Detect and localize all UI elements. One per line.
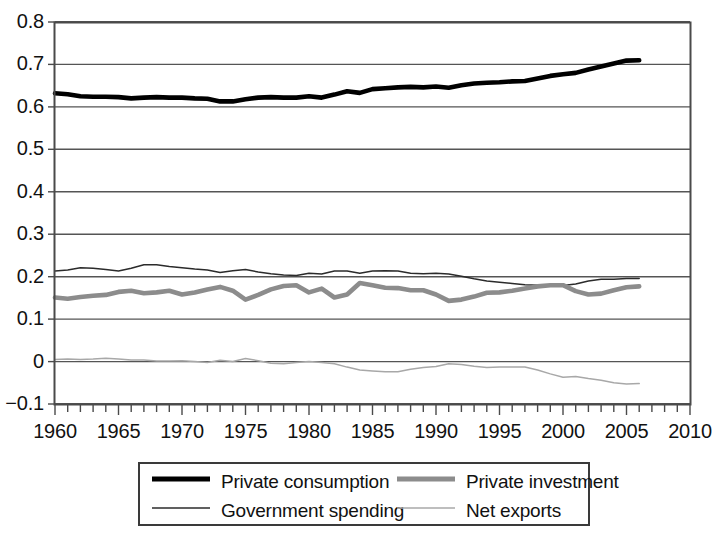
gridlines xyxy=(55,22,690,404)
y-axis-tick-label: 0.1 xyxy=(0,308,44,328)
legend-row-2: Government spending Net exports xyxy=(140,495,592,525)
chart-container: 0.80.70.60.50.40.30.20.10−0.1 1960196519… xyxy=(0,0,727,548)
series-line-private-investment xyxy=(55,283,639,301)
x-axis-tick-label: 1970 xyxy=(147,421,217,441)
legend-item-private-investment[interactable]: Private investment xyxy=(395,466,619,496)
legend-swatch-government-spending xyxy=(150,501,212,519)
x-axis-tick-label: 1990 xyxy=(401,421,471,441)
plot-frame xyxy=(55,23,691,405)
legend-label-net-exports: Net exports xyxy=(466,501,561,520)
legend-swatch-private-consumption xyxy=(150,472,212,490)
y-axis-tick-label: 0 xyxy=(0,351,44,371)
x-axis-tick-label: 2010 xyxy=(655,421,725,441)
y-axis-tick-label: 0.4 xyxy=(0,181,44,201)
data-series-group xyxy=(55,60,639,384)
y-axis-tick-label: 0.6 xyxy=(0,96,44,116)
legend-swatch-private-investment xyxy=(395,472,457,490)
x-axis-tick-label: 1995 xyxy=(465,421,535,441)
x-axis-tick-label: 1960 xyxy=(20,421,90,441)
legend-label-private-investment: Private investment xyxy=(466,472,619,491)
legend-row-1: Private consumption Private investment xyxy=(140,466,592,496)
legend-label-private-consumption: Private consumption xyxy=(221,472,389,491)
y-axis-tick-label: 0.2 xyxy=(0,266,44,286)
x-axis-ticks xyxy=(48,22,690,415)
series-line-private-consumption xyxy=(55,60,639,101)
legend-item-private-consumption[interactable]: Private consumption xyxy=(150,466,389,496)
x-axis-tick-label: 1965 xyxy=(84,421,154,441)
chart-legend: Private consumption Private investment G… xyxy=(138,462,590,526)
y-axis-tick-label: 0.3 xyxy=(0,223,44,243)
legend-swatch-net-exports xyxy=(395,501,457,519)
y-axis-tick-label: −0.1 xyxy=(0,393,44,413)
y-axis-tick-label: 0.8 xyxy=(0,11,44,31)
x-axis-tick-label: 1980 xyxy=(274,421,344,441)
y-axis-tick-label: 0.7 xyxy=(0,53,44,73)
legend-item-government-spending[interactable]: Government spending xyxy=(150,495,404,525)
x-axis-tick-label: 2005 xyxy=(592,421,662,441)
x-axis-tick-label: 1985 xyxy=(338,421,408,441)
legend-item-net-exports[interactable]: Net exports xyxy=(395,495,561,525)
x-axis-tick-label: 2000 xyxy=(528,421,598,441)
y-axis-tick-label: 0.5 xyxy=(0,138,44,158)
legend-label-government-spending: Government spending xyxy=(221,501,404,520)
x-axis-tick-label: 1975 xyxy=(211,421,281,441)
series-line-government-spending xyxy=(55,265,639,286)
